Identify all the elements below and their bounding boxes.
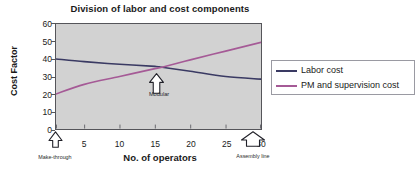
legend-item-pm-supervision-cost: PM and supervision cost [276, 78, 399, 93]
y-tick-label: 30 [26, 73, 52, 82]
legend-swatch-labor-cost [276, 70, 297, 72]
y-tick-label: 60 [26, 20, 52, 29]
legend-label-labor-cost: Labor cost [301, 66, 343, 75]
assembly-line-arrow-icon [240, 131, 266, 147]
chart-figure: Division of labor and cost components Co… [0, 0, 419, 174]
x-tick-label: 5 [74, 140, 94, 149]
chart-title: Division of labor and cost components [55, 3, 265, 14]
y-tick-label: 40 [26, 55, 52, 64]
chart-legend: Labor cost PM and supervision cost [271, 60, 415, 95]
x-tick-label: 10 [110, 140, 130, 149]
y-axis-title: Cost Factor [9, 36, 19, 106]
annotation-make-through [47, 131, 64, 152]
make-through-arrow-icon [47, 131, 64, 148]
x-axis-title: No. of operators [55, 152, 265, 163]
y-tick-label: 50 [26, 38, 52, 47]
x-tick-label: 15 [145, 140, 165, 149]
x-tick-label: 20 [181, 140, 201, 149]
x-tick-label: 25 [217, 140, 237, 149]
annotation-label-modular: Modular [129, 92, 189, 98]
annotation-assembly-line [240, 131, 266, 151]
plot-area [55, 23, 262, 130]
inner-tick-marks [56, 125, 260, 129]
legend-label-pm-supervision-cost: PM and supervision cost [301, 81, 399, 90]
y-tick-label: 20 [26, 91, 52, 100]
legend-item-labor-cost: Labor cost [276, 63, 343, 78]
legend-swatch-pm-supervision-cost [276, 85, 297, 87]
plot-lines-svg [56, 24, 261, 129]
y-tick-label: 10 [26, 108, 52, 117]
